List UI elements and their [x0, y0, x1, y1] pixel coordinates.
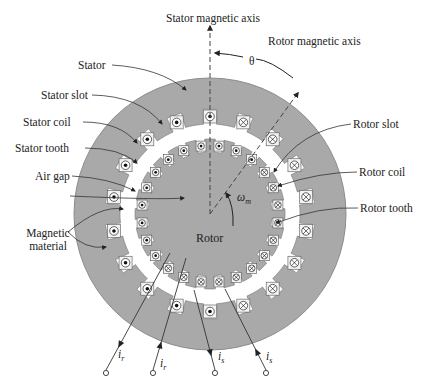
- terminal-node-icon: [103, 370, 108, 375]
- stator-coil-dot-icon: [107, 224, 120, 237]
- rotor-coil-cross-icon: [247, 263, 257, 273]
- rotor-coil-cross-icon: [163, 263, 173, 273]
- rotor-coil-dot-icon: [137, 218, 147, 228]
- stator-coil-cross-icon: [237, 116, 250, 129]
- rotor-coil-cross-icon: [273, 200, 283, 210]
- rotor-coil-cross-icon: [231, 272, 241, 282]
- rotor-coil-cross-icon: [259, 251, 269, 261]
- stator-coil-dot-icon: [141, 282, 154, 295]
- omega-m-label: ωm: [237, 191, 251, 208]
- stator-coil-cross-icon: [288, 256, 301, 269]
- rotor-coil-dot-icon: [142, 183, 152, 193]
- rotor-magnetic-axis-label: Rotor magnetic axis: [268, 35, 361, 48]
- stator-coil-cross-icon: [300, 191, 313, 204]
- terminal-node-icon: [150, 370, 155, 375]
- air-gap-label: Air gap: [35, 170, 70, 183]
- stator-coil-dot-icon: [119, 159, 132, 172]
- rotor-coil-cross-icon: [268, 235, 278, 245]
- stator-coil-cross-icon: [300, 224, 313, 237]
- terminal-node-icon: [263, 370, 268, 375]
- stator-coil-cross-icon: [266, 282, 279, 295]
- stator-slot-label: Stator slot: [41, 89, 88, 102]
- terminal-node-icon: [212, 370, 217, 375]
- rotor-coil-dot-icon: [231, 146, 241, 156]
- rotor-coil-label: Rotor coil: [359, 166, 405, 179]
- stator-coil-dot-icon: [170, 116, 183, 129]
- magnetic-material-label: Magnetic material: [18, 227, 78, 253]
- rotor-label: Rotor: [196, 232, 223, 245]
- stator-coil-label: Stator coil: [23, 116, 71, 129]
- current-arrow-icon: [118, 340, 124, 348]
- terminal-label-is-1: is: [218, 350, 224, 367]
- rotor-coil-dot-icon: [163, 155, 173, 165]
- stator-label: Stator: [78, 59, 105, 72]
- rotor-tooth-label: Rotor tooth: [360, 202, 413, 215]
- rotor-coil-cross-icon: [214, 277, 224, 287]
- rotor-coil-dot-icon: [137, 200, 147, 210]
- rotor-coil-dot-icon: [214, 141, 224, 151]
- stator-coil-dot-icon: [119, 256, 132, 269]
- stator-tooth-label: Stator tooth: [15, 142, 69, 155]
- rotor-coil-cross-icon: [268, 183, 278, 193]
- rotor-coil-dot-icon: [179, 146, 189, 156]
- rotor-coil-dot-icon: [151, 251, 161, 261]
- rotor-coil-dot-icon: [151, 167, 161, 177]
- theta-label: θ: [249, 55, 255, 68]
- terminal-label-is-2: is: [266, 350, 272, 367]
- rotor-coil-cross-icon: [196, 277, 206, 287]
- machine-cross-section-diagram: [0, 0, 424, 383]
- stator-coil-cross-icon: [237, 299, 250, 312]
- stator-coil-dot-icon: [141, 133, 154, 146]
- rotor-coil-cross-icon: [273, 218, 283, 228]
- rotor-coil-dot-icon: [247, 155, 257, 165]
- rotor-coil-cross-icon: [259, 167, 269, 177]
- terminal-label-ir-2: ir: [160, 357, 166, 374]
- current-arrow-icon: [157, 342, 163, 350]
- stator-coil-dot-icon: [204, 305, 217, 318]
- rotor-coil-dot-icon: [142, 235, 152, 245]
- rotor-slot-label: Rotor slot: [353, 118, 399, 131]
- stator-magnetic-axis-label: Stator magnetic axis: [166, 12, 260, 25]
- stator-coil-cross-icon: [288, 159, 301, 172]
- rotor-coil-dot-icon: [196, 141, 206, 151]
- terminal-label-ir-1: ir: [118, 348, 124, 365]
- stator-coil-dot-icon: [107, 191, 120, 204]
